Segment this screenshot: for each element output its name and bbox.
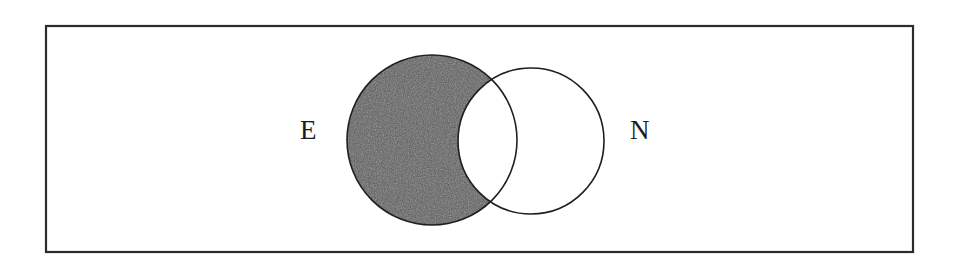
venn-diagram-graphic	[0, 0, 957, 276]
shaded-region-e-minus-n	[330, 40, 560, 240]
set-label-n: N	[630, 117, 650, 144]
set-label-e: E	[300, 117, 317, 144]
figure-canvas: E N	[0, 0, 957, 276]
